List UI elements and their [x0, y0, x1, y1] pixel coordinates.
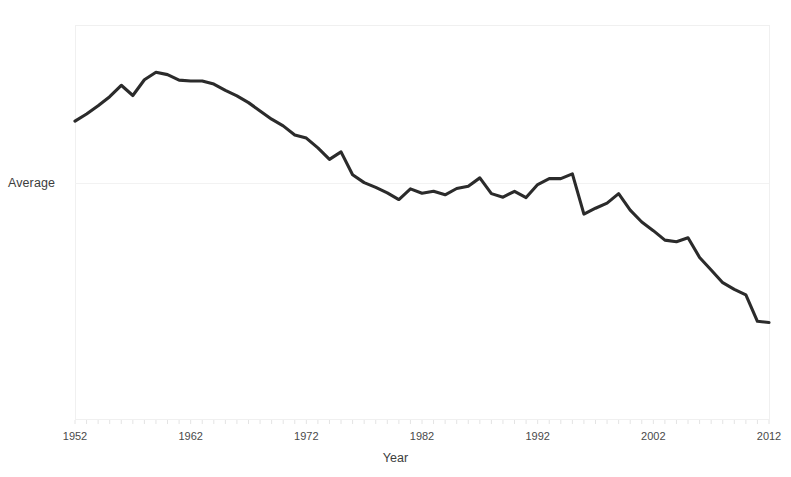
x-tick-label: 2002 — [641, 430, 665, 442]
x-tick-label: 1972 — [294, 430, 318, 442]
y-axis-title: Average — [8, 176, 70, 190]
x-tick-label: 1962 — [178, 430, 202, 442]
x-axis-title: Year — [0, 451, 791, 465]
data-series-line — [75, 72, 769, 322]
x-tick-label: 1982 — [410, 430, 434, 442]
chart-container: Average Year 195219621972198219922002201… — [0, 0, 791, 477]
x-tick-label: 1952 — [63, 430, 87, 442]
x-axis-tick-marks — [75, 420, 769, 424]
panel-border — [76, 26, 770, 420]
line-chart-plot — [0, 0, 791, 477]
x-tick-label: 2012 — [757, 430, 781, 442]
panel-background — [76, 26, 770, 420]
x-tick-label: 1992 — [525, 430, 549, 442]
